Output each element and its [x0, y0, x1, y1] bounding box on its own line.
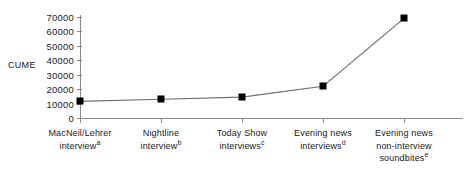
- cume-line-chart: CUME 01000020000300004000050000600007000…: [0, 0, 475, 179]
- category-label-line: Evening news: [350, 127, 458, 140]
- x-axis-tick: [323, 118, 324, 123]
- category-footnote-marker: a: [96, 139, 100, 146]
- plot-area: 010000200003000040000500006000070000: [80, 17, 412, 118]
- category-label-line: non-interview: [350, 140, 458, 153]
- data-point-marker: [401, 15, 408, 22]
- y-axis-tick-label: 40000: [47, 55, 74, 66]
- x-axis-tick: [80, 118, 81, 123]
- category-footnote-marker: c: [261, 139, 265, 146]
- data-point-marker: [158, 96, 165, 103]
- data-point-marker: [77, 98, 84, 105]
- data-point-marker: [320, 83, 327, 90]
- y-axis-tick-label: 0: [69, 113, 74, 124]
- x-axis-category-labels: MacNeil/LehrerinterviewaNightlineintervi…: [0, 127, 475, 179]
- y-axis-tick-label: 20000: [47, 84, 74, 95]
- y-axis-tick-label: 30000: [47, 69, 74, 80]
- series-line: [80, 17, 412, 118]
- category-footnote-marker: e: [425, 151, 429, 158]
- y-axis-tick-label: 10000: [47, 98, 74, 109]
- x-axis-line: [80, 118, 463, 119]
- category-footnote-marker: b: [177, 139, 181, 146]
- y-axis-tick-label: 60000: [47, 26, 74, 37]
- y-axis-tick-label: 70000: [47, 12, 74, 23]
- category-footnote-marker: d: [342, 139, 346, 146]
- x-axis-tick: [161, 118, 162, 123]
- x-axis-tick: [242, 118, 243, 123]
- x-axis-category-label: Evening newsnon-interviewsoundbitese: [350, 127, 458, 165]
- x-axis-tick: [404, 118, 405, 123]
- data-point-marker: [239, 94, 246, 101]
- y-axis-tick-label: 50000: [47, 40, 74, 51]
- category-label-line: soundbitese: [350, 152, 458, 165]
